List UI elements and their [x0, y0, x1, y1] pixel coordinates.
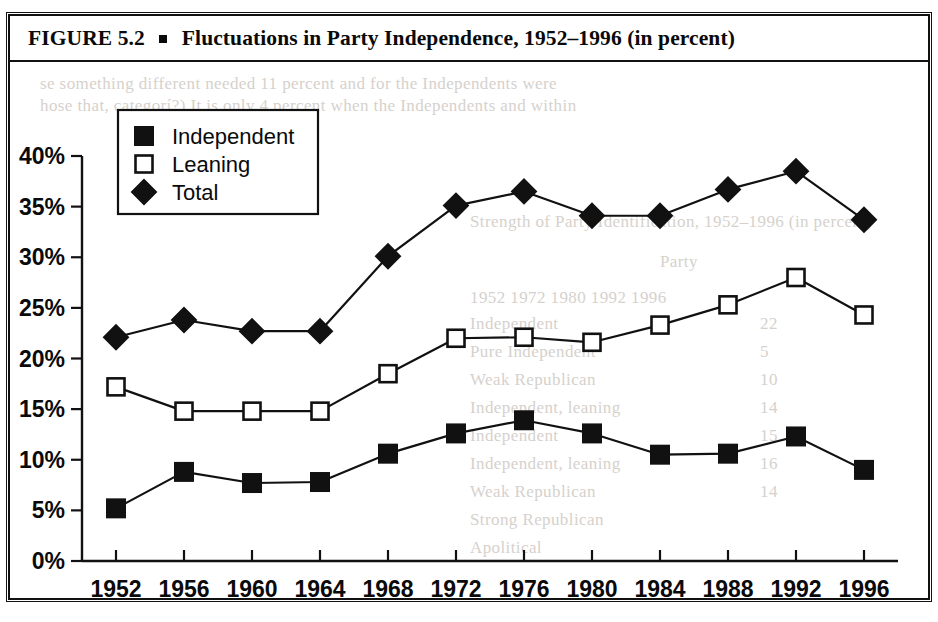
- line-chart: 0%5%10%15%20%25%30%35%40%195219561960196…: [10, 62, 928, 598]
- x-axis-ticks: 1952195619601964196819721976198019841988…: [90, 550, 889, 598]
- x-tick-label: 1980: [566, 576, 617, 598]
- y-tick-label: 5%: [32, 497, 65, 523]
- chart-legend: IndependentLeaningTotal: [118, 110, 318, 214]
- y-tick-label: 20%: [19, 346, 65, 372]
- x-tick-label: 1992: [770, 576, 821, 598]
- data-point-open-square: [788, 269, 805, 286]
- data-point-filled-square: [651, 446, 669, 464]
- x-tick-label: 1960: [226, 576, 277, 598]
- legend-label: Total: [172, 180, 218, 205]
- data-point-filled-diamond: [648, 204, 672, 228]
- legend-label: Leaning: [172, 152, 250, 177]
- data-point-filled-square: [243, 474, 261, 492]
- data-point-filled-square: [379, 445, 397, 463]
- x-tick-label: 1984: [634, 576, 685, 598]
- data-point-filled-square: [447, 424, 465, 442]
- data-point-filled-diamond: [784, 159, 808, 183]
- x-tick-label: 1976: [498, 576, 549, 598]
- data-point-filled-square: [311, 473, 329, 491]
- data-point-filled-diamond: [172, 308, 196, 332]
- data-point-open-square: [720, 296, 737, 313]
- x-tick-label: 1988: [702, 576, 753, 598]
- data-point-filled-square: [583, 424, 601, 442]
- figure-caption: FIGURE 5.2 Fluctuations in Party Indepen…: [28, 26, 735, 51]
- y-tick-label: 25%: [19, 295, 65, 321]
- y-tick-label: 35%: [19, 194, 65, 220]
- series-leaning: [108, 269, 873, 420]
- data-point-filled-square: [175, 463, 193, 481]
- data-point-filled-square: [855, 461, 873, 479]
- data-point-filled-square: [787, 427, 805, 445]
- y-tick-label: 30%: [19, 244, 65, 270]
- figure-title: Fluctuations in Party Independence, 1952…: [182, 26, 735, 50]
- x-tick-label: 1968: [362, 576, 413, 598]
- series-independent: [107, 411, 873, 517]
- y-axis-ticks: 0%5%10%15%20%25%30%35%40%: [19, 143, 82, 574]
- legend-label: Independent: [172, 124, 294, 149]
- y-tick-label: 15%: [19, 396, 65, 422]
- data-point-filled-diamond: [240, 319, 264, 343]
- data-point-open-square: [312, 403, 329, 420]
- y-tick-label: 0%: [32, 548, 65, 574]
- data-point-filled-diamond: [716, 177, 740, 201]
- series-line: [116, 420, 864, 508]
- series-line: [116, 278, 864, 412]
- x-tick-label: 1972: [430, 576, 481, 598]
- x-tick-label: 1956: [158, 576, 209, 598]
- x-tick-label: 1996: [838, 576, 889, 598]
- data-point-open-square: [176, 403, 193, 420]
- data-point-open-square: [244, 403, 261, 420]
- data-point-open-square: [516, 329, 533, 346]
- figure-number: FIGURE 5.2: [28, 26, 145, 50]
- data-point-open-square: [108, 378, 125, 395]
- square-bullet-icon: [159, 35, 167, 43]
- plot-area: 0%5%10%15%20%25%30%35%40%195219561960196…: [10, 62, 928, 598]
- data-point-open-square: [380, 365, 397, 382]
- data-point-filled-square: [719, 445, 737, 463]
- data-point-open-square: [652, 317, 669, 334]
- data-point-filled-diamond: [444, 194, 468, 218]
- data-point-filled-square: [515, 411, 533, 429]
- figure-caption-bar: FIGURE 5.2 Fluctuations in Party Indepen…: [10, 16, 928, 62]
- y-tick-label: 10%: [19, 447, 65, 473]
- x-tick-label: 1952: [90, 576, 141, 598]
- data-point-open-square: [856, 306, 873, 323]
- data-point-filled-diamond: [512, 179, 536, 203]
- figure-frame: FIGURE 5.2 Fluctuations in Party Indepen…: [8, 14, 930, 600]
- legend-marker-open-square: [136, 156, 153, 173]
- x-tick-label: 1964: [294, 576, 345, 598]
- y-tick-label: 40%: [19, 143, 65, 169]
- data-point-filled-diamond: [580, 204, 604, 228]
- axes: [82, 156, 898, 561]
- data-point-filled-diamond: [104, 325, 128, 349]
- data-point-filled-square: [107, 499, 125, 517]
- data-point-open-square: [448, 330, 465, 347]
- data-point-filled-diamond: [852, 208, 876, 232]
- legend-marker-filled-square: [135, 127, 153, 145]
- data-point-open-square: [584, 334, 601, 351]
